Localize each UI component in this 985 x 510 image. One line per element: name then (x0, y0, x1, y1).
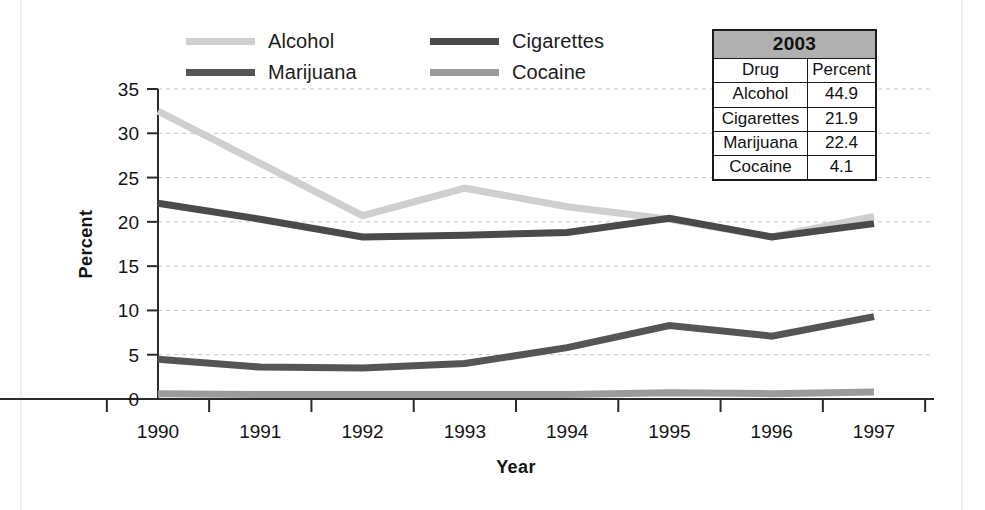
table-row: Alcohol44.9 (714, 83, 876, 107)
y-tick-label: 10 (118, 300, 139, 321)
x-tick-label: 1990 (137, 421, 179, 442)
x-tick-label: 1994 (546, 421, 589, 442)
x-axis-title: Year (496, 457, 536, 477)
table-cell-drug: Alcohol (714, 83, 808, 107)
x-tick-label: 1991 (239, 421, 281, 442)
legend-label: Alcohol (268, 30, 334, 53)
y-tick-label: 0 (128, 389, 139, 410)
table-title-row: 2003 (714, 31, 876, 59)
table-cell-drug: Cigarettes (714, 107, 808, 131)
x-tick-label: 1996 (751, 421, 793, 442)
x-tick-label: 1993 (444, 421, 486, 442)
y-axis-ticks (147, 89, 158, 399)
table-row: Cigarettes21.9 (714, 107, 876, 131)
y-tick-label: 25 (118, 168, 139, 189)
chart-legend: AlcoholCigarettesMarijuanaCocaine (186, 26, 656, 88)
x-tick-label: 1997 (853, 421, 895, 442)
table-column-header: Percent (807, 59, 875, 83)
figure-page: 05101520253035 1990199119921993199419951… (0, 0, 985, 510)
legend-swatch-cocaine (430, 69, 499, 76)
legend-item-alcohol: Alcohol (186, 30, 430, 53)
table-cell-percent: 21.9 (807, 107, 875, 131)
legend-label: Cocaine (512, 61, 586, 84)
x-tick-label: 1995 (648, 421, 690, 442)
table-cell-percent: 4.1 (807, 155, 875, 179)
y-tick-label: 20 (118, 212, 139, 233)
legend-item-marijuana: Marijuana (186, 61, 430, 84)
table-title: 2003 (714, 31, 876, 59)
legend-swatch-marijuana (186, 69, 255, 76)
summary-data-table: 2003DrugPercentAlcohol44.9Cigarettes21.9… (712, 29, 877, 181)
table-row: Cocaine4.1 (714, 155, 876, 179)
x-axis-ticks (107, 399, 925, 412)
y-tick-label: 35 (118, 79, 139, 100)
series-line-cigarettes (158, 203, 874, 237)
table-cell-drug: Cocaine (714, 155, 808, 179)
legend-label: Marijuana (268, 61, 357, 84)
series-line-marijuana (158, 317, 874, 368)
y-tick-label: 30 (118, 123, 139, 144)
y-tick-label: 15 (118, 256, 139, 277)
table-cell-percent: 44.9 (807, 83, 875, 107)
legend-label: Cigarettes (512, 30, 604, 53)
y-axis-tick-labels: 05101520253035 (118, 79, 139, 410)
legend-item-cocaine: Cocaine (430, 61, 674, 84)
table-column-header: Drug (714, 59, 808, 83)
table-header-row: DrugPercent (714, 59, 876, 83)
y-axis-title: Percent (76, 210, 96, 279)
series-line-cocaine (158, 392, 874, 395)
x-tick-label: 1992 (341, 421, 383, 442)
legend-swatch-cigarettes (430, 38, 499, 45)
legend-swatch-alcohol (186, 38, 255, 45)
y-tick-label: 5 (128, 345, 139, 366)
table-cell-percent: 22.4 (807, 131, 875, 155)
table-row: Marijuana22.4 (714, 131, 876, 155)
legend-item-cigarettes: Cigarettes (430, 30, 674, 53)
table-cell-drug: Marijuana (714, 131, 808, 155)
x-axis-tick-labels: 19901991199219931994199519961997 (137, 421, 895, 442)
line-chart-figure: 05101520253035 1990199119921993199419951… (0, 0, 985, 510)
